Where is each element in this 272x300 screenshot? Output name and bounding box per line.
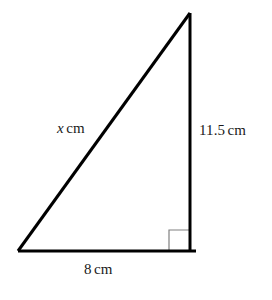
right-angle-marker <box>169 230 190 251</box>
hypotenuse-label: xcm <box>57 121 85 136</box>
triangle-side-hypotenuse <box>18 13 190 251</box>
hypotenuse-variable: x <box>57 120 64 136</box>
hypotenuse-unit: cm <box>66 120 85 136</box>
base-side-label: 8cm <box>84 262 113 277</box>
figure-canvas: xcm 11.5cm 8cm <box>0 0 272 300</box>
vertical-side-label: 11.5cm <box>199 123 246 138</box>
vertical-side-value: 11.5 <box>199 122 225 138</box>
triangle-graphic <box>0 0 272 300</box>
vertical-side-unit: cm <box>228 122 247 138</box>
base-side-unit: cm <box>94 261 113 277</box>
base-side-value: 8 <box>84 261 92 277</box>
